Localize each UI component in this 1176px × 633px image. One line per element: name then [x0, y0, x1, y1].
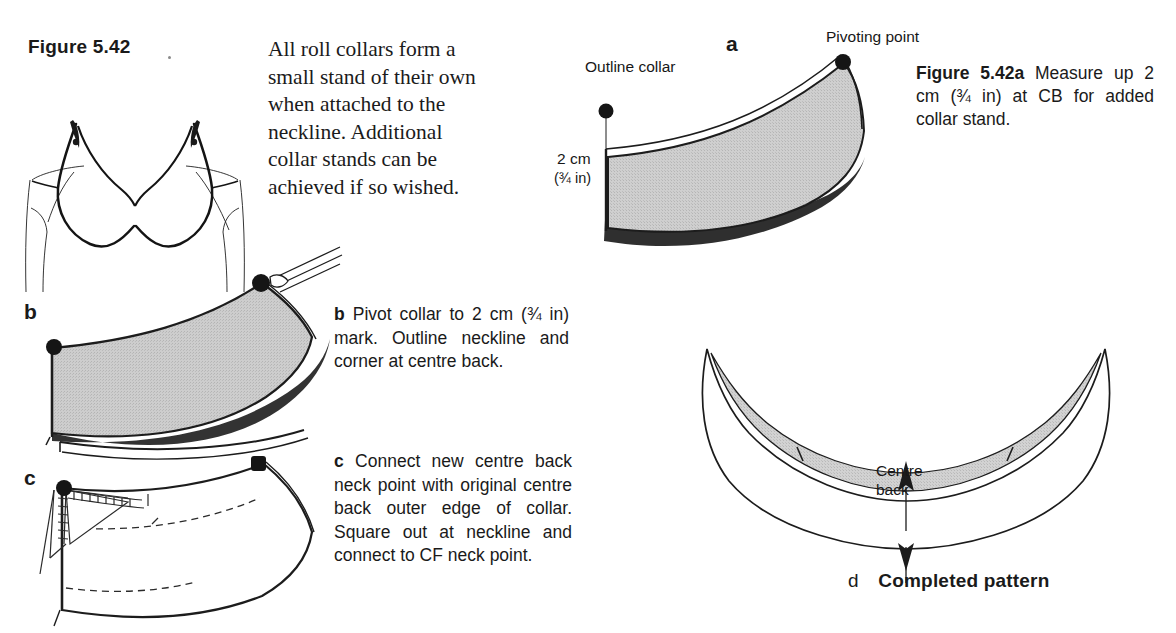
title-dot-mark — [168, 56, 171, 59]
step-b-text: b Pivot collar to 2 cm (¾ in) mark. Outl… — [334, 303, 569, 374]
panel-d-diagram — [645, 335, 1165, 565]
step-b-body: Pivot collar to 2 cm (¾ in) mark. Outlin… — [334, 304, 569, 371]
caption-figure-ref: Figure 5.42a — [916, 63, 1024, 83]
step-c-body: Connect new centre back neck point with … — [334, 451, 572, 565]
intro-paragraph: All roll collars form a small stand of t… — [268, 36, 480, 201]
panel-d-title: d Completed pattern — [848, 570, 1050, 592]
label-pivoting-point: Pivoting point — [826, 28, 919, 46]
label-centre-back-d-line2: back — [876, 481, 909, 499]
step-c-label: c — [334, 451, 344, 471]
panel-d-title-text: Completed pattern — [878, 570, 1049, 591]
step-c-text: c Connect new centre back neck point wit… — [334, 450, 572, 568]
panel-c-letter: c — [24, 466, 36, 490]
step-b-label: b — [334, 304, 345, 324]
panel-d-letter: d — [848, 570, 859, 591]
panel-a-diagram — [560, 45, 910, 245]
caption-figure-5-42a: Figure 5.42a Measure up 2 cm (¾ in) at C… — [916, 62, 1154, 131]
figure-title: Figure 5.42 — [28, 36, 131, 58]
panel-b-diagram — [40, 255, 340, 445]
panel-b-letter: b — [24, 300, 37, 324]
panel-c-diagram — [36, 440, 336, 633]
label-centre-back-d-line1: Centre — [876, 462, 923, 480]
